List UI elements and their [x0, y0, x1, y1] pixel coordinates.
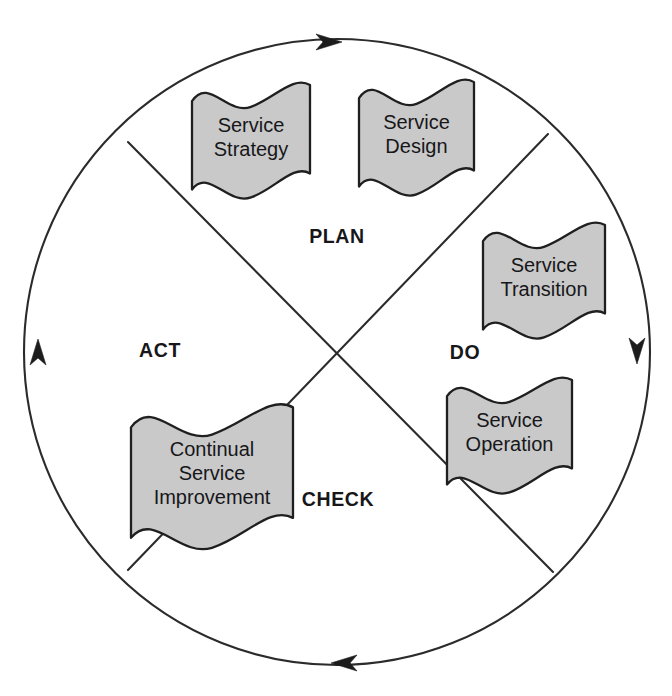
flag-label-line: Service — [476, 409, 543, 431]
flag-label-line: Continual — [170, 438, 255, 460]
flag-service-transition: ServiceTransition — [483, 223, 605, 339]
flag-label-line: Service — [511, 254, 578, 276]
flag-label-line: Improvement — [154, 486, 271, 508]
flag-label-line: Strategy — [214, 138, 288, 160]
arrow-right-icon — [629, 338, 645, 364]
flag-label-line: Service — [383, 111, 450, 133]
flag-service-strategy: ServiceStrategy — [192, 83, 310, 199]
flag-label-line: Operation — [466, 433, 554, 455]
arrow-bottom-icon — [331, 655, 357, 671]
flag-label-line: Service — [218, 114, 285, 136]
flag-label-line: Design — [385, 135, 447, 157]
cycle-diagram-canvas: ServiceStrategyServiceDesignServiceTrans… — [0, 0, 672, 696]
flag-service-operation: ServiceOperation — [447, 378, 572, 494]
phase-label-do: DO — [450, 341, 480, 363]
itil-pdca-cycle-diagram: ServiceStrategyServiceDesignServiceTrans… — [0, 0, 672, 696]
arrow-left-icon — [30, 339, 46, 365]
flag-service-design: ServiceDesign — [359, 80, 474, 196]
phase-label-plan: PLAN — [309, 225, 364, 247]
flag-label-line: Transition — [500, 278, 587, 300]
flag-label-line: Service — [179, 462, 246, 484]
arrow-top-icon — [316, 34, 342, 50]
phase-label-check: CHECK — [302, 488, 374, 510]
flag-continual-service-improvement: ContinualServiceImprovement — [131, 404, 293, 549]
phase-label-act: ACT — [139, 339, 181, 361]
